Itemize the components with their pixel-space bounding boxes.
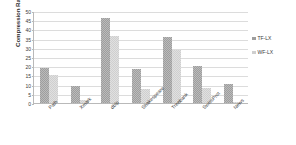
legend-item[interactable]: WF-LX — [252, 50, 296, 55]
legend-swatch-icon — [252, 51, 256, 55]
y-axis-tick-label: 25 — [25, 56, 31, 61]
bar — [71, 86, 80, 103]
x-axis-tick-label: News — [232, 106, 236, 110]
y-axis-tick-label: 35 — [25, 37, 31, 42]
bar — [132, 69, 141, 103]
chart-legend: TF-LXWF-LX — [252, 36, 296, 64]
y-axis-tick-label: 45 — [25, 19, 31, 24]
y-axis-tick-label: 40 — [25, 28, 31, 33]
y-axis-tick-mark — [32, 104, 34, 105]
bar-group — [126, 12, 157, 103]
y-axis-tick-label: 5 — [28, 92, 31, 97]
y-axis-tick-label: 20 — [25, 65, 31, 70]
x-axis-tick-label: Shakespeare — [140, 106, 144, 110]
y-axis-title: Compression Ratio (%) — [12, 0, 24, 62]
bar-group — [187, 12, 218, 103]
chart-figure: Compression Ratio (%) 051015202530354045… — [0, 0, 296, 145]
bar-group — [217, 12, 248, 103]
legend-label: TF-LX — [258, 36, 272, 41]
bar — [110, 36, 119, 103]
bar — [163, 37, 172, 103]
y-axis-tick-label: 10 — [25, 83, 31, 88]
bar-group — [95, 12, 126, 103]
x-axis-labels: PathXmarkdblpShakespeareTreebankSwissPro… — [33, 106, 248, 144]
legend-label: WF-LX — [258, 50, 274, 55]
x-axis-tick-label: dblp — [109, 106, 113, 110]
y-axis-tick-label: 0 — [28, 102, 31, 107]
bar-group — [34, 12, 65, 103]
y-axis-tick-label: 50 — [25, 10, 31, 15]
x-axis-tick-label: Path — [47, 106, 51, 110]
y-axis-tick-label: 30 — [25, 46, 31, 51]
x-axis-tick-label: Xmark — [78, 106, 82, 110]
x-axis-tick-label: Treebank — [170, 106, 174, 110]
x-axis-tick-label: SwissProt — [201, 106, 205, 110]
bar — [40, 68, 49, 103]
bar — [101, 18, 110, 103]
legend-item[interactable]: TF-LX — [252, 36, 296, 41]
legend-swatch-icon — [252, 37, 256, 41]
bar — [193, 66, 202, 103]
y-axis-tick-label: 15 — [25, 74, 31, 79]
bar — [224, 84, 233, 103]
bar-group — [65, 12, 96, 103]
